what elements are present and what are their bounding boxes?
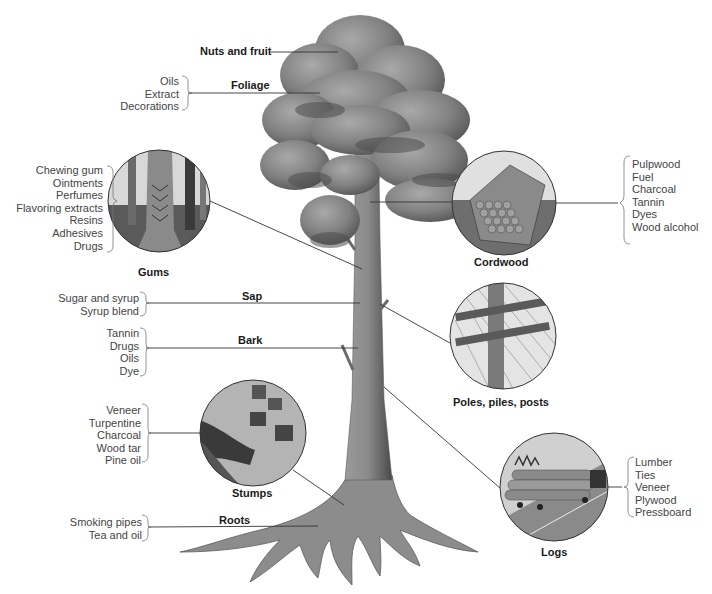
cordwood-products: Pulpwood Fuel Charcoal Tannin Dyes Wood …	[632, 158, 698, 234]
product-item: Oils	[107, 352, 139, 365]
product-item: Pressboard	[635, 506, 691, 519]
label-foliage: Foliage	[231, 79, 270, 92]
sap-products: Sugar and syrup Syrup blend	[58, 292, 139, 317]
product-item: Drugs	[107, 340, 139, 353]
product-item: Ties	[635, 469, 691, 482]
product-item: Wood alcohol	[632, 221, 698, 234]
label-stumps: Stumps	[232, 487, 272, 500]
product-item: Resins	[16, 214, 103, 227]
product-item: Perfumes	[16, 189, 103, 202]
bark-products: Tannin Drugs Oils Dye	[107, 327, 139, 377]
product-item: Decorations	[120, 100, 179, 113]
product-item: Chewing gum	[16, 164, 103, 177]
label-gums: Gums	[138, 266, 169, 279]
cordwood-illustration	[450, 150, 560, 260]
logs-illustration	[500, 433, 610, 545]
logs-products: Lumber Ties Veneer Plywood Pressboard	[635, 456, 691, 519]
product-item: Dye	[107, 365, 139, 378]
product-item: Ointments	[16, 177, 103, 190]
product-item: Tannin	[107, 327, 139, 340]
label-cordwood: Cordwood	[474, 256, 528, 269]
stumps-illustration	[198, 378, 308, 490]
product-item: Veneer	[89, 404, 141, 417]
product-item: Pine oil	[89, 454, 141, 467]
roots-products: Smoking pipes Tea and oil	[70, 516, 142, 541]
product-item: Smoking pipes	[70, 516, 142, 529]
product-item: Drugs	[16, 240, 103, 253]
product-item: Lumber	[635, 456, 691, 469]
label-sap: Sap	[242, 290, 262, 303]
product-item: Syrup blend	[58, 305, 139, 318]
product-item: Tannin	[632, 196, 698, 209]
stumps-products: Veneer Turpentine Charcoal Wood tar Pine…	[89, 404, 141, 467]
gums-products: Chewing gum Ointments Perfumes Flavoring…	[16, 164, 103, 252]
product-item: Turpentine	[89, 417, 141, 430]
product-item: Dyes	[632, 208, 698, 221]
product-item: Fuel	[632, 171, 698, 184]
label-logs: Logs	[541, 546, 567, 559]
product-item: Tea and oil	[70, 529, 142, 542]
product-item: Wood tar	[89, 442, 141, 455]
product-item: Veneer	[635, 481, 691, 494]
poles-illustration	[448, 282, 560, 394]
product-item: Sugar and syrup	[58, 292, 139, 305]
product-item: Pulpwood	[632, 158, 698, 171]
label-poles-piles-posts: Poles, piles, posts	[453, 396, 549, 409]
label-roots: Roots	[219, 514, 250, 527]
label-nuts-and-fruit: Nuts and fruit	[200, 45, 272, 58]
product-item: Oils	[120, 75, 179, 88]
roots-illustration	[180, 475, 478, 585]
product-item: Charcoal	[632, 183, 698, 196]
product-item: Adhesives	[16, 227, 103, 240]
foliage-products: Oils Extract Decorations	[120, 75, 179, 113]
gums-illustration	[100, 145, 220, 260]
product-item: Plywood	[635, 494, 691, 507]
tree-products-diagram: Nuts and fruit Foliage Gums Cordwood Sap…	[0, 0, 712, 594]
label-bark: Bark	[238, 334, 262, 347]
product-item: Extract	[120, 88, 179, 101]
product-item: Charcoal	[89, 429, 141, 442]
product-item: Flavoring extracts	[16, 202, 103, 215]
